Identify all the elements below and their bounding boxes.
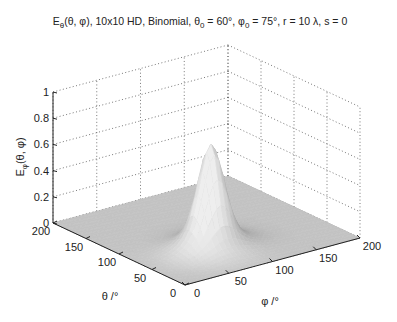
z-tick-label: 0.4 — [34, 165, 49, 177]
phi-tick-label: 150 — [319, 252, 337, 264]
theta-tick-label: 50 — [134, 272, 146, 284]
z-tick-label: 0.8 — [34, 112, 49, 124]
phi-tick-label: 0 — [194, 287, 200, 299]
theta-tick-label: 0 — [170, 287, 176, 299]
theta-tick-label: 100 — [98, 256, 116, 268]
chart-title: Eθ(θ, φ), 10x10 HD, Binomial, θ0 = 60°, … — [53, 15, 348, 30]
phi-tick-label: 100 — [275, 264, 293, 276]
y-axis-label: θ /° — [102, 290, 119, 302]
theta-tick-label: 200 — [32, 225, 50, 237]
z-tick-label: 1 — [43, 86, 49, 98]
phi-tick-label: 50 — [235, 275, 247, 287]
z-tick-label: 0.2 — [34, 191, 49, 203]
z-axis-label: Eφ(θ, φ) — [14, 137, 29, 176]
theta-tick-label: 150 — [65, 241, 83, 253]
x-axis-label: φ /° — [261, 295, 279, 307]
surface-plot: Eθ(θ, φ), 10x10 HD, Binomial, θ0 = 60°, … — [0, 0, 397, 322]
phi-tick-label: 200 — [363, 240, 381, 252]
z-tick-label: 0.6 — [34, 138, 49, 150]
